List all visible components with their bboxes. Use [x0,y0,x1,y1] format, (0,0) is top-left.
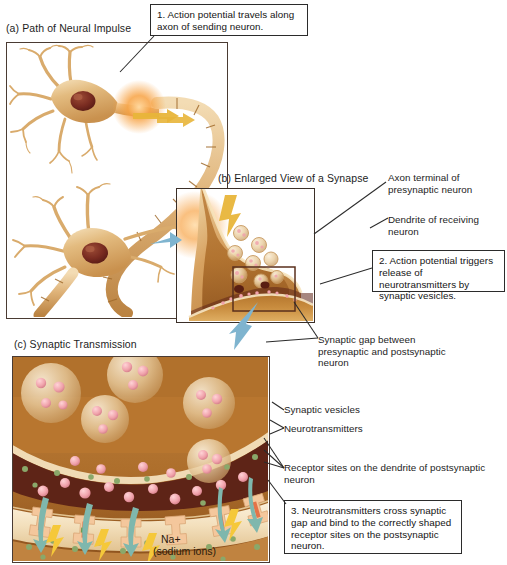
panel-c-svg: Na+ (sodium ions) [13,357,268,561]
label-synaptic-vesicles: Synaptic vesicles [284,404,464,416]
label-neurotransmitters-leader [268,418,286,436]
synaptic-transmission-figure: (a) Path of Neural Impulse [0,0,507,565]
label-receptor-sites-leader [262,436,286,476]
label-dendrite-leader [368,216,390,230]
label-synaptic-gap-leader [264,300,320,344]
callout-2-leader [318,262,374,288]
nucleus-bottom-neuron [82,243,108,264]
sodium-label-line1: Na+ [161,533,181,545]
label-axon-terminal: Axon terminal of presynaptic neuron [388,172,506,195]
callout-2: 2. Action potential triggers release of … [372,250,505,292]
label-neurotransmitters: Neurotransmitters [284,423,464,435]
zoom-arrow-a-to-b [148,228,184,254]
callout-1: 1. Action potential travels along axon o… [150,4,308,36]
label-dendrite: Dendrite of receiving neuron [388,214,506,237]
nucleus-top-neuron [71,91,96,111]
zoom-arrow-b-to-c [224,300,264,356]
label-receptor-sites: Receptor sites on the dendrite of postsy… [284,462,494,485]
panel-c-title: (c) Synaptic Transmission [14,338,137,350]
panel-c-illustration: Na+ (sodium ions) [12,356,270,563]
action-potential-glow [112,80,166,134]
callout-3: 3. Neurotransmitters cross synaptic gap … [284,500,462,554]
label-synaptic-vesicles-leader [270,400,286,414]
fusing-vesicle [187,439,231,483]
callout-3-leader [266,478,288,506]
callout-1-leader [118,34,178,74]
panel-a-title: (a) Path of Neural Impulse [6,22,131,34]
label-synaptic-gap: Synaptic gap between presynaptic and pos… [318,334,448,369]
sodium-label-line2: (sodium ions) [153,545,216,557]
